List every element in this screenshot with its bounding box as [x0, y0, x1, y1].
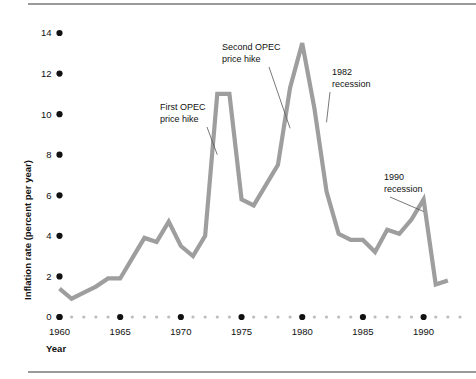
x-tick-dot-minor	[106, 315, 109, 318]
x-tick-dot-minor	[155, 315, 158, 318]
annotation-label: 1982	[332, 67, 352, 77]
x-tick-dot-minor	[373, 315, 376, 318]
x-tick-dot-minor	[252, 315, 255, 318]
x-tick-dot-minor	[434, 315, 437, 318]
x-tick-dot-major	[178, 314, 184, 320]
y-tick-label: 12	[41, 68, 52, 79]
inflation-rate-line	[60, 43, 448, 299]
y-tick-label: 4	[46, 230, 51, 241]
y-tick-dot	[56, 111, 62, 117]
annotation-label: price hike	[222, 54, 261, 64]
chart-annotations: First OPECprice hikeSecond OPECprice hik…	[160, 42, 424, 212]
y-tick-label: 10	[41, 109, 52, 120]
x-tick-dot-minor	[325, 315, 328, 318]
y-tick-label: 6	[46, 190, 51, 201]
x-tick-dot-minor	[337, 315, 340, 318]
x-tick-label: 1985	[352, 326, 373, 337]
y-tick-label: 2	[46, 271, 51, 282]
x-tick-dot-major	[299, 314, 305, 320]
x-tick-label: 1990	[413, 326, 434, 337]
x-tick-dot-minor	[276, 315, 279, 318]
x-tick-dot-major	[238, 314, 244, 320]
x-tick-dot-minor	[191, 315, 194, 318]
x-tick-dot-minor	[398, 315, 401, 318]
x-tick-dot-minor	[288, 315, 291, 318]
annotation-leader-line	[327, 92, 331, 122]
annotation-label: recession	[384, 184, 423, 194]
annotation-label: recession	[332, 79, 371, 89]
x-tick-dot-minor	[264, 315, 267, 318]
annotation-first-opec: First OPECprice hike	[160, 102, 217, 155]
x-tick-label: 1980	[292, 326, 313, 337]
y-axis-title: Inflation rate (percent per year)	[22, 160, 33, 300]
x-tick-dot-minor	[204, 315, 207, 318]
x-tick-label: 1970	[170, 326, 191, 337]
x-tick-dot-minor	[410, 315, 413, 318]
annotation-recession-1982: 1982recession	[327, 67, 371, 122]
y-tick-dot	[56, 152, 62, 158]
x-tick-dot-minor	[131, 315, 134, 318]
annotation-label: price hike	[160, 114, 199, 124]
x-tick-dot-minor	[313, 315, 316, 318]
x-tick-dot-minor	[386, 315, 389, 318]
x-tick-dot-major	[56, 314, 62, 320]
y-tick-label: 14	[41, 27, 52, 38]
x-tick-dot-minor	[167, 315, 170, 318]
x-tick-dot-minor	[216, 315, 219, 318]
x-tick-dot-major	[420, 314, 426, 320]
x-tick-dot-major	[117, 314, 123, 320]
annotation-label: First OPEC	[160, 102, 206, 112]
y-tick-dot	[56, 192, 62, 198]
x-tick-dot-minor	[94, 315, 97, 318]
x-axis-ticks: 1960196519701975198019851990	[49, 314, 462, 337]
x-tick-dot-minor	[70, 315, 73, 318]
y-tick-label: 8	[46, 149, 51, 160]
x-tick-dot-minor	[458, 315, 461, 318]
y-tick-dot	[56, 30, 62, 36]
x-tick-label: 1965	[110, 326, 131, 337]
chart-plot-area: 02468101214 1960196519701975198019851990…	[0, 0, 476, 379]
x-tick-dot-minor	[446, 315, 449, 318]
y-axis-ticks: 02468101214	[41, 27, 63, 322]
x-tick-dot-minor	[349, 315, 352, 318]
inflation-rate-chart-figure: 02468101214 1960196519701975198019851990…	[0, 0, 476, 379]
x-tick-label: 1975	[231, 326, 252, 337]
x-axis-title: Year	[46, 343, 66, 354]
x-tick-dot-minor	[228, 315, 231, 318]
y-tick-label: 0	[46, 311, 51, 322]
x-tick-dot-minor	[143, 315, 146, 318]
y-tick-dot	[56, 273, 62, 279]
annotation-label: 1990	[384, 172, 404, 182]
y-tick-dot	[56, 233, 62, 239]
annotation-label: Second OPEC	[222, 42, 281, 52]
x-tick-dot-minor	[82, 315, 85, 318]
x-tick-label: 1960	[49, 326, 70, 337]
x-tick-dot-major	[360, 314, 366, 320]
y-tick-dot	[56, 70, 62, 76]
